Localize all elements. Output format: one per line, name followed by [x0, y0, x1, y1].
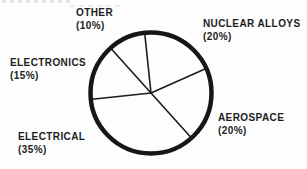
slice-percent: (35%): [18, 143, 85, 156]
slice-name: OTHER: [76, 6, 113, 19]
slice-percent: (10%): [76, 19, 113, 32]
slice-percent: (15%): [10, 69, 86, 82]
slice-name: ELECTRONICS: [10, 56, 86, 69]
slice-name: NUCLEAR ALLOYS: [203, 17, 300, 30]
slice-label-electronics: ELECTRONICS (15%): [10, 56, 86, 82]
slice-label-other: OTHER (10%): [76, 6, 113, 32]
slice-label-aerospace: AEROSPACE (20%): [218, 111, 284, 137]
slice-percent: (20%): [218, 124, 284, 137]
slice-label-electrical: ELECTRICAL (35%): [18, 130, 85, 156]
pie-chart-figure: NUCLEAR ALLOYS (20%) AEROSPACE (20%) ELE…: [0, 0, 307, 169]
slice-name: AEROSPACE: [218, 111, 284, 124]
slice-percent: (20%): [203, 30, 300, 43]
slice-name: ELECTRICAL: [18, 130, 85, 143]
slice-label-nuclear-alloys: NUCLEAR ALLOYS (20%): [203, 17, 300, 43]
